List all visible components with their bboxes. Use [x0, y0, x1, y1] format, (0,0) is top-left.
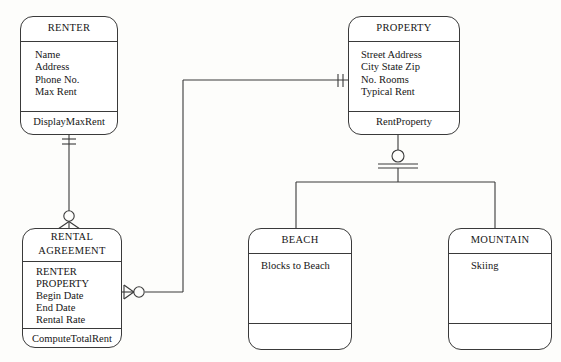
entity-rental-agreement-title: RENTAL AGREEMENT	[23, 229, 121, 262]
entity-beach-operations	[249, 323, 351, 349]
attribute: No. Rooms	[361, 74, 459, 86]
attribute: Rental Rate	[36, 314, 121, 326]
entity-property-title: PROPERTY	[349, 17, 459, 42]
entity-mountain[interactable]: MOUNTAIN Skiing	[448, 228, 552, 350]
entity-rental-agreement-operations: ComputeTotalRent	[23, 328, 121, 348]
entity-mountain-operations	[449, 323, 551, 349]
attribute: End Date	[36, 302, 121, 314]
attribute: PROPERTY	[36, 278, 121, 290]
entity-rental-agreement-attributes: RENTER PROPERTY Begin Date End Date Rent…	[23, 262, 121, 328]
title-line: RENTAL	[25, 230, 119, 244]
entity-mountain-title: MOUNTAIN	[449, 229, 551, 254]
attribute: Max Rent	[35, 86, 117, 98]
entity-property[interactable]: PROPERTY Street Address City State Zip N…	[348, 16, 460, 135]
attribute: Skiing	[471, 260, 551, 272]
attribute: Blocks to Beach	[261, 260, 351, 272]
attribute: Typical Rent	[361, 86, 459, 98]
crowsfoot-rental-right-lower	[124, 292, 134, 299]
crowsfoot-rental-right-upper	[124, 285, 134, 292]
entity-renter-title: RENTER	[21, 17, 117, 42]
cardinality-circle-rental-top	[64, 211, 74, 221]
attribute: Begin Date	[36, 290, 121, 302]
entity-beach[interactable]: BEACH Blocks to Beach	[248, 228, 352, 350]
entity-mountain-attributes: Skiing	[449, 254, 551, 323]
entity-property-attributes: Street Address City State Zip No. Rooms …	[349, 42, 459, 111]
entity-rental-agreement[interactable]: RENTAL AGREEMENT RENTER PROPERTY Begin D…	[22, 228, 122, 348]
attribute: City State Zip	[361, 61, 459, 73]
entity-beach-attributes: Blocks to Beach	[249, 254, 351, 323]
entity-renter-attributes: Name Address Phone No. Max Rent	[21, 42, 117, 111]
entity-beach-title: BEACH	[249, 229, 351, 254]
title-line: AGREEMENT	[25, 244, 119, 258]
cardinality-circle-rental-right	[134, 287, 144, 297]
attribute: Street Address	[361, 49, 459, 61]
entity-property-operations: RentProperty	[349, 111, 459, 134]
attribute: Address	[35, 61, 117, 73]
attribute: Phone No.	[35, 74, 117, 86]
entity-renter[interactable]: RENTER Name Address Phone No. Max Rent D…	[20, 16, 118, 135]
attribute: RENTER	[36, 266, 121, 278]
er-diagram-canvas: RENTER Name Address Phone No. Max Rent D…	[0, 0, 561, 362]
generalization-circle	[392, 150, 404, 162]
entity-renter-operations: DisplayMaxRent	[21, 111, 117, 134]
attribute: Name	[35, 49, 117, 61]
